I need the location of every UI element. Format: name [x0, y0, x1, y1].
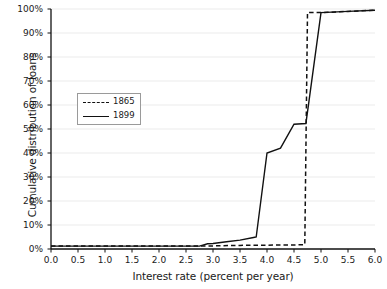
- chart-legend: 1865 1899: [77, 93, 141, 125]
- data-series: [51, 10, 375, 246]
- legend-label-1899: 1899: [113, 111, 135, 120]
- plot-area: [0, 0, 387, 289]
- series-line-1899: [51, 10, 375, 246]
- axis-ticks: [48, 9, 376, 253]
- legend-swatch-dashed-icon: [83, 102, 109, 103]
- chart-container: Cumulative distribution of loans Interes…: [0, 0, 387, 289]
- series-line-1865: [51, 10, 375, 246]
- legend-entry-1899: 1899: [78, 109, 142, 124]
- legend-label-1865: 1865: [113, 97, 135, 106]
- legend-entry-1865: 1865: [78, 95, 142, 110]
- legend-swatch-solid-icon: [83, 116, 109, 117]
